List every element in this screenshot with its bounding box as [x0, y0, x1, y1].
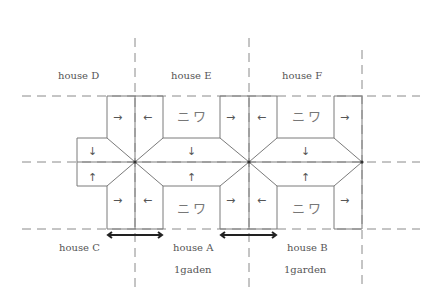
arrow-right-icon: →: [113, 194, 122, 207]
label-house-e: house E: [171, 70, 211, 81]
courtyard-label-a: ニワ: [177, 201, 209, 216]
arrow-down-icon: ↓: [187, 145, 196, 158]
label-garden-a: 1gaden: [174, 264, 212, 275]
courtyard-label-e: ニワ: [177, 109, 209, 124]
arrow-up-icon: ↑: [88, 171, 97, 184]
arrow-right-icon: →: [340, 194, 349, 207]
arrow-up-icon: ↑: [301, 171, 310, 184]
label-house-f: house F: [282, 70, 322, 81]
label-garden-b: 1garden: [284, 264, 327, 275]
courtyard-label-f: ニワ: [292, 109, 324, 124]
arrow-down-icon: ↓: [88, 145, 97, 158]
arrow-up-icon: ↑: [187, 171, 196, 184]
label-house-c: house C: [59, 242, 100, 253]
arrow-right-icon: →: [226, 194, 235, 207]
arrow-left-icon: ←: [143, 194, 152, 207]
arrow-left-icon: ←: [143, 111, 152, 124]
courtyard-block-fb: [277, 138, 362, 186]
arrow-down-icon: ↓: [301, 145, 310, 158]
label-house-d: house D: [58, 70, 99, 81]
arrow-right-icon: →: [226, 111, 235, 124]
label-house-a: house A: [173, 242, 214, 253]
arrow-right-icon: →: [340, 111, 349, 124]
courtyard-label-b: ニワ: [292, 201, 324, 216]
house-plan-diagram: house D house E house F house C house A …: [0, 0, 441, 305]
label-house-b: house B: [287, 242, 327, 253]
arrow-right-icon: →: [113, 111, 122, 124]
arrow-left-icon: ←: [257, 194, 266, 207]
arrow-left-icon: ←: [257, 111, 266, 124]
